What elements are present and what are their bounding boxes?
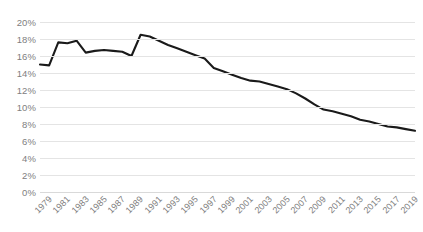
gridline [40,39,415,40]
x-tick-label: 2015 [362,194,384,216]
gridline [40,175,415,176]
y-tick-label: 6% [22,136,36,147]
x-tick-label: 1991 [142,194,164,216]
x-tick-label: 2001 [234,194,256,216]
x-tick-label: 2005 [270,194,292,216]
x-tick-label: 1987 [106,194,128,216]
x-tick-label: 1981 [51,194,73,216]
y-tick-label: 8% [22,119,36,130]
x-tick-label: 2003 [252,194,274,216]
x-tick-label: 2007 [289,194,311,216]
series-polyline [40,35,415,131]
gridline [40,124,415,125]
gridline [40,141,415,142]
plot-area [40,22,415,192]
gridline [40,90,415,91]
gridline [40,56,415,57]
x-tick-label: 1999 [215,194,237,216]
gridline [40,192,415,193]
x-tick-label: 1983 [69,194,91,216]
x-tick-label: 1997 [197,194,219,216]
gridline [40,22,415,23]
y-tick-label: 20% [17,17,36,28]
y-tick-label: 4% [22,153,36,164]
y-tick-label: 0% [22,187,36,198]
x-axis: 1979198119831985198719891991199319951997… [40,194,415,232]
y-tick-label: 12% [17,85,36,96]
gridline [40,73,415,74]
x-tick-label: 1993 [161,194,183,216]
line-chart: 0%2%4%6%8%10%12%14%16%18%20% 19791981198… [0,0,423,232]
gridline [40,158,415,159]
y-tick-label: 10% [17,102,36,113]
x-tick-label: 2009 [307,194,329,216]
x-tick-label: 1989 [124,194,146,216]
y-tick-label: 14% [17,68,36,79]
y-tick-label: 16% [17,51,36,62]
x-tick-label: 2011 [326,194,347,215]
x-tick-label: 1985 [87,194,109,216]
x-tick-label: 2017 [380,194,402,216]
y-axis: 0%2%4%6%8%10%12%14%16%18%20% [0,22,36,192]
gridline [40,107,415,108]
x-tick-label: 2019 [398,194,420,216]
y-tick-label: 18% [17,34,36,45]
x-tick-label: 1995 [179,194,201,216]
x-tick-label: 2013 [344,194,366,216]
y-tick-label: 2% [22,170,36,181]
